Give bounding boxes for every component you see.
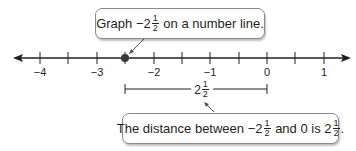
tick-label: −3 xyxy=(91,66,104,78)
point-marker xyxy=(121,54,129,62)
whole-part: 2 xyxy=(194,83,201,97)
tick-label: −1 xyxy=(204,66,217,78)
bottom-callout: The distance between −2 12 and 0 is 2 12… xyxy=(122,113,339,144)
tick-label: −2 xyxy=(148,66,161,78)
fraction: 12 xyxy=(202,80,209,99)
tick-label: 1 xyxy=(321,66,327,78)
tick-label: 0 xyxy=(264,66,270,78)
distance-label: 2 12 xyxy=(191,80,213,99)
tick-label: −4 xyxy=(34,66,47,78)
top-callout: Graph −2 12 on a number line. xyxy=(95,8,265,39)
